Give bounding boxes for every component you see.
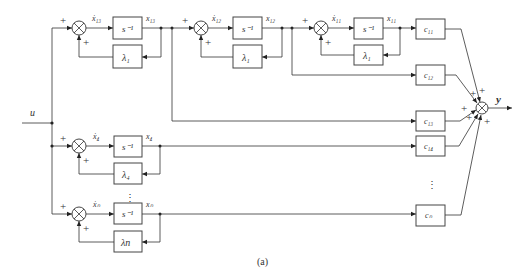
gain-label: c₁₃ [424, 117, 433, 126]
chain-stage-2: + + ẋ₁₂ s⁻¹ x₁₂ λ₁ [172, 14, 292, 68]
gain-c13: c₁₃ [416, 111, 445, 131]
state-label: x₁₂ [265, 14, 275, 23]
state-label: x₄ [145, 132, 153, 141]
gain-label: c₁₂ [424, 71, 433, 80]
plus-sign: + [484, 115, 490, 127]
mode-n: + + ẋₙ s⁻¹ xₙ λn [52, 200, 416, 252]
plus-sign: + [302, 14, 308, 26]
summing-junction [72, 207, 86, 221]
integrator-label: s⁻¹ [122, 24, 134, 34]
gain-label: cₙ [425, 211, 433, 220]
summing-junction [72, 21, 86, 35]
eigenvalue-label: λ₁ [362, 50, 371, 61]
integrator-label: s⁻¹ [122, 142, 134, 152]
figure-caption: (a) [257, 256, 268, 268]
plus-sign: + [83, 154, 89, 166]
plus-sign: + [205, 36, 211, 48]
state-derivative-label: ẋ₁₃ [91, 14, 101, 23]
gain-c12: c₁₂ [416, 65, 445, 85]
gain-cn: cₙ [416, 205, 445, 226]
plus-sign: + [182, 14, 188, 26]
input-label: u [30, 107, 35, 118]
gain-label: c₁₄ [424, 142, 433, 151]
state-label: x₁₃ [145, 14, 155, 23]
plus-sign: + [60, 200, 66, 212]
summing-junction [72, 139, 86, 153]
ellipsis: ⋮ [125, 192, 135, 203]
state-label: xₙ [145, 200, 154, 209]
integrator-label: s⁻¹ [242, 24, 254, 34]
block-diagram: u + + ẋ₁₃ s⁻¹ x₁₃ λ₁ + [0, 0, 530, 268]
plus-sign: + [479, 84, 485, 96]
plus-sign: + [60, 14, 66, 26]
plus-sign: + [470, 87, 476, 99]
eigenvalue-label: λ₄ [121, 169, 130, 180]
gain-c11: c₁₁ [416, 19, 445, 39]
output-summing-junction [476, 102, 488, 114]
mode-4: + + ẋ₄ s⁻¹ x₄ λ₄ [52, 132, 416, 184]
junction-dot [50, 121, 53, 124]
eigenvalue-label: λn [120, 237, 130, 248]
summing-junction [194, 21, 208, 35]
summing-junction [314, 21, 328, 35]
gain-c14: c₁₄ [416, 136, 445, 156]
eigenvalue-label: λ₁ [241, 52, 250, 63]
plus-sign: + [83, 36, 89, 48]
gain-label: c₁₁ [424, 25, 433, 34]
ellipsis: ⋮ [427, 179, 437, 190]
output-label: y [494, 93, 501, 105]
chain-stage-1: + + ẋ₁₃ s⁻¹ x₁₃ λ₁ [52, 14, 172, 68]
input-signal: u [22, 107, 52, 123]
plus-sign: + [466, 111, 472, 123]
plus-sign: + [325, 36, 331, 48]
state-derivative-label: ẋ₁₂ [211, 14, 221, 23]
integrator-label: s⁻¹ [122, 209, 134, 219]
state-derivative-label: ẋ₁₁ [331, 14, 341, 23]
chain-stage-3: + + ẋ₁₁ s⁻¹ x₁₁ λ₁ [292, 14, 416, 65]
state-label: x₁₁ [386, 14, 396, 23]
eigenvalue-label: λ₁ [121, 52, 130, 63]
output-lines [445, 29, 481, 215]
plus-sign: + [60, 132, 66, 144]
state-derivative-label: ẋ₄ [92, 132, 100, 141]
integrator-label: s⁻¹ [363, 24, 375, 34]
state-derivative-label: ẋₙ [92, 200, 101, 209]
plus-sign: + [83, 222, 89, 234]
